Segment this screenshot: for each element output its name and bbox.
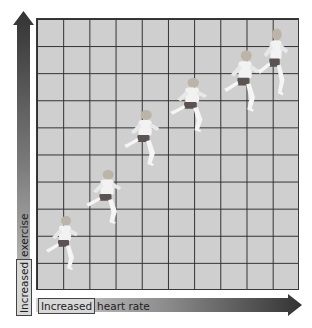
heart-rate-exercise-diagram: Increasedexercise Increasedheart rate [0, 0, 312, 328]
runner-figure-icon [122, 108, 166, 168]
y-axis-label: Increasedexercise [16, 156, 30, 316]
y-axis-label-word2: exercise [17, 212, 31, 259]
x-axis-label: Increasedheart rate [38, 298, 152, 312]
runner-figure-icon [44, 214, 84, 272]
y-axis-label-word1: Increased [16, 259, 32, 316]
runner-figure-icon [256, 26, 294, 98]
x-axis-label-word1: Increased [38, 298, 95, 314]
x-axis-label-word2: heart rate [95, 299, 152, 313]
runner-figure-icon [84, 168, 128, 226]
runner-figure-icon [168, 76, 214, 134]
